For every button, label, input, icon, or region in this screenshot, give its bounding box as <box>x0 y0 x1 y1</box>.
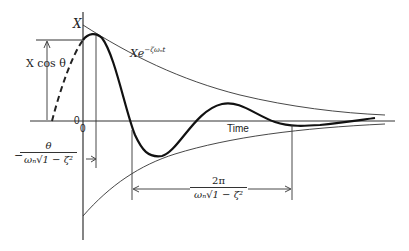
diagram-canvas <box>0 0 409 251</box>
envelope-label: Xe−ζωₙt <box>130 47 165 59</box>
response-curve <box>83 34 375 156</box>
dashed-extension <box>52 40 83 121</box>
phase-shift-fraction: θ ωₙ√1 − ζ² <box>20 140 77 165</box>
period-numerator: 2π <box>190 175 247 187</box>
time-axis-label: Time <box>227 124 249 134</box>
phase-numerator: θ <box>20 140 77 152</box>
y-axis-label: X <box>73 18 82 30</box>
phase-denominator: ωₙ√1 − ζ² <box>20 152 77 166</box>
period-denominator: ωₙ√1 − ζ² <box>190 187 247 201</box>
origin-label-below: 0 <box>80 124 86 134</box>
period-fraction: 2π ωₙ√1 − ζ² <box>190 175 247 200</box>
envelope-exponent: −ζωₙt <box>144 46 165 54</box>
origin-label-left: 0 <box>74 116 80 126</box>
upper-envelope <box>83 25 385 115</box>
lower-envelope <box>83 124 385 216</box>
envelope-base: Xe <box>130 47 144 60</box>
amplitude-label: X cos θ <box>26 58 66 69</box>
